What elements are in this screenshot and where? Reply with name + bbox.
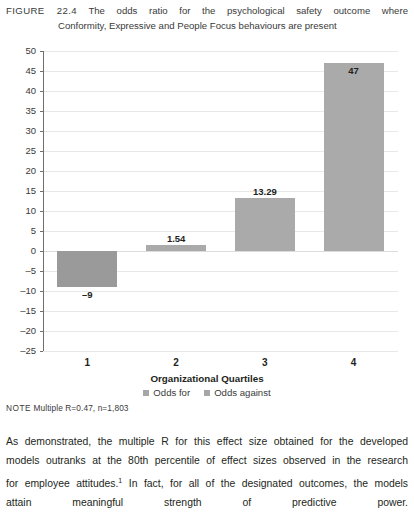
legend-label: Odds for [153, 387, 190, 398]
y-axis-tick-mark [40, 151, 43, 152]
y-axis-tick-label: –25 [2, 346, 36, 356]
legend-item: Odds against [204, 387, 271, 398]
gridline [43, 351, 398, 352]
y-axis-tick-mark [40, 71, 43, 72]
y-axis-tick-mark [40, 271, 43, 272]
y-axis-tick-label: 0 [2, 246, 36, 256]
y-axis-tick-mark [40, 211, 43, 212]
y-axis-tick-label: 15 [2, 186, 36, 196]
chart-legend: Odds forOdds against [0, 387, 414, 398]
body-paragraph: As demonstrated, the multiple R for this… [6, 432, 408, 512]
y-axis-tick-label: 10 [2, 206, 36, 216]
figure-caption: FIGURE 22.4 The odds ratio for the psych… [6, 4, 408, 33]
gridline [43, 51, 398, 52]
y-axis-tick-label: 35 [2, 106, 36, 116]
legend-label: Odds against [214, 387, 271, 398]
figure-note-text: Multiple R=0.47, n=1,803 [33, 403, 128, 413]
x-axis-tick-label: 2 [132, 357, 221, 368]
y-axis-tick-mark [40, 51, 43, 52]
y-axis-tick-label: –10 [2, 286, 36, 296]
bar-value-label: 13.29 [223, 186, 307, 197]
bar-value-label: 47 [312, 65, 396, 76]
y-axis-tick-label: 20 [2, 166, 36, 176]
bar [146, 245, 206, 251]
figure-note: NOTE Multiple R=0.47, n=1,803 [6, 403, 129, 413]
figure-number: FIGURE 22.4 [6, 5, 77, 16]
figure-note-label: NOTE [6, 403, 31, 413]
x-axis-tick-label: 1 [43, 357, 132, 368]
y-axis-tick-label: –20 [2, 326, 36, 336]
body-line-3-text: for employee attitudes. [6, 478, 118, 489]
y-axis-tick-label: 5 [2, 226, 36, 236]
y-axis-tick-label: 45 [2, 66, 36, 76]
bar [324, 63, 384, 251]
bar [235, 198, 295, 251]
legend-swatch-icon [204, 390, 210, 396]
gridline [43, 311, 398, 312]
bar [57, 251, 117, 287]
bar-chart: 50454035302520151050–5–10–15–20–25 –91.5… [0, 44, 414, 399]
gridline [43, 331, 398, 332]
y-axis-tick-label: 30 [2, 126, 36, 136]
body-line-3-rest: In fact, for all of the designated outco… [122, 478, 408, 489]
x-axis-tick-label: 4 [309, 357, 398, 368]
y-axis-tick-mark [40, 191, 43, 192]
figure-caption-line-2: Conformity, Expressive and People Focus … [6, 19, 408, 34]
legend-swatch-icon [143, 390, 149, 396]
figure-caption-text-1: The odds ratio for the psychological saf… [88, 5, 408, 16]
figure-caption-line-1: FIGURE 22.4 The odds ratio for the psych… [6, 4, 408, 19]
y-axis-tick-mark [40, 311, 43, 312]
y-axis-line [43, 51, 44, 351]
y-axis-tick-mark [40, 331, 43, 332]
bar-value-label: –9 [45, 289, 129, 300]
y-axis-tick-mark [40, 171, 43, 172]
y-axis-tick-mark [40, 131, 43, 132]
y-axis-tick-mark [40, 111, 43, 112]
x-axis-tick-label: 3 [221, 357, 310, 368]
legend-item: Odds for [143, 387, 190, 398]
y-axis-tick-label: 50 [2, 46, 36, 56]
y-axis-tick-mark [40, 251, 43, 252]
body-line-1: As demonstrated, the multiple R for this… [6, 432, 408, 451]
x-axis-title: Organizational Quartiles [0, 373, 414, 384]
body-line-4: attain meaningful strength of predictive… [6, 493, 408, 512]
y-axis-tick-mark [40, 291, 43, 292]
bar-value-label: 1.54 [134, 233, 218, 244]
y-axis-tick-label: 40 [2, 86, 36, 96]
y-axis-tick-mark [40, 91, 43, 92]
y-axis-tick-label: –15 [2, 306, 36, 316]
y-axis-tick-mark [40, 231, 43, 232]
body-line-3: for employee attitudes.1 In fact, for al… [6, 471, 408, 494]
y-axis-tick-mark [40, 351, 43, 352]
y-axis-tick-label: 25 [2, 146, 36, 156]
body-line-2: models outranks at the 80th percentile o… [6, 451, 408, 470]
y-axis-tick-label: –5 [2, 266, 36, 276]
